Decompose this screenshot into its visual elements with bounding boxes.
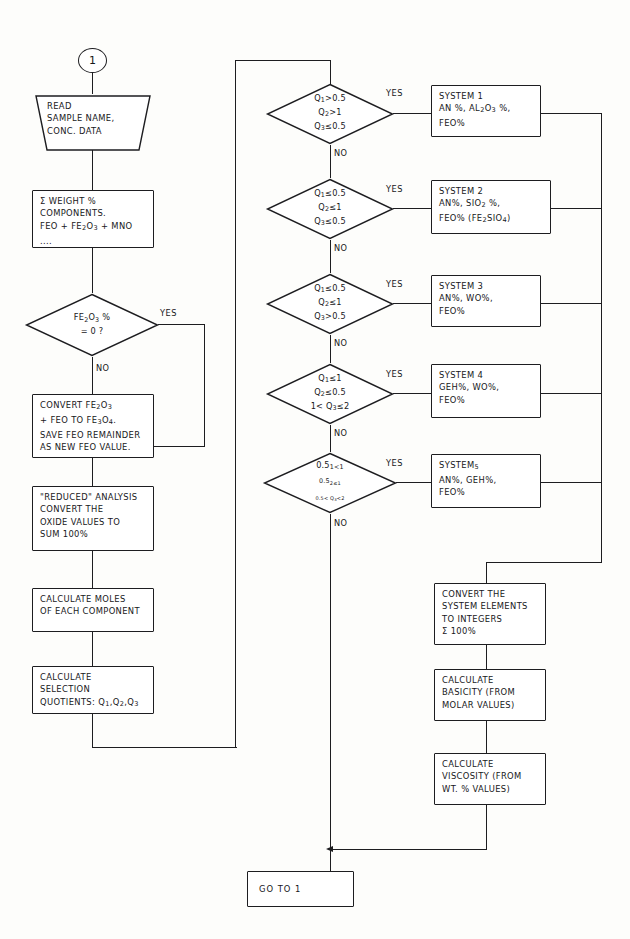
node-calculate-viscosity-text: CALCULATEVISCOSITY (FROMWT. % VALUES) — [435, 754, 545, 799]
node-decision-5-text: 0.51<10.52≤10.5< Q3<2 — [263, 460, 397, 505]
node-calculate-viscosity: CALCULATEVISCOSITY (FROMWT. % VALUES) — [434, 753, 546, 805]
node-calculate-moles-text: CALCULATE MOLESOF EACH COMPONENT — [33, 589, 153, 622]
line-d1-yes — [393, 113, 431, 114]
line-read-to-sum — [92, 150, 93, 190]
line-d4-no — [330, 425, 331, 452]
line-viscosity-to-goto-merge — [330, 849, 487, 850]
node-decision-fe2o3-zero: Fe2O3 %= 0 ? — [25, 293, 159, 357]
node-reduced-analysis-text: "REDUCED" ANALYSISCONVERT THEOXIDE VALUE… — [33, 487, 153, 545]
line-basicity-to-viscosity — [486, 721, 487, 753]
edge-label-d3-yes: YES — [386, 279, 403, 289]
line-systems-bus-vertical — [601, 113, 602, 563]
node-calculate-quotients-text: CALCULATESELECTIONQUOTIENTS: Q1,Q2,Q3 — [33, 667, 153, 715]
node-reduced-analysis: "REDUCED" ANALYSISCONVERT THEOXIDE VALUE… — [32, 486, 154, 551]
node-go-to-1: GO TO 1 — [247, 871, 354, 907]
line-d4-yes — [393, 393, 431, 394]
node-decision-2: Q1≤0.5Q2≤1Q3≤0.5 — [266, 178, 394, 240]
line-fe-yes-down — [204, 324, 205, 447]
node-decision-1: Q1>0.5Q2>1Q3≤0.5 — [266, 83, 394, 145]
edge-label-d4-no: NO — [334, 428, 348, 438]
node-system-3-text: SYSTEM 3AN%, WO%,FeO% — [432, 276, 540, 321]
line-d5-no-down — [330, 514, 331, 850]
node-decision-4: Q1≤1Q2≤0.51< Q3≤2 — [266, 363, 394, 425]
node-decision-3: Q1≤0.5Q2≤1Q3>0.5 — [266, 273, 394, 335]
node-decision-3-text: Q1≤0.5Q2≤1Q3>0.5 — [266, 283, 394, 325]
line-quotients-up-bus — [235, 60, 236, 748]
node-sum-weight-percent: Σ WEIGHT %COMPONENTS.FeO + Fe2O3 + MnO .… — [32, 190, 154, 248]
line-d3-yes — [393, 303, 431, 304]
trapezoid-shape — [34, 94, 152, 152]
connector-start-label: 1 — [89, 54, 96, 67]
line-fe-no-down — [92, 357, 93, 394]
edge-label-d2-no: NO — [334, 243, 348, 253]
edge-label-d1-no: NO — [334, 148, 348, 158]
node-system-1: SYSTEM 1AN %, Al2O3 %,FeO% — [431, 85, 541, 137]
flowchart-canvas: 1 READSAMPLE NAME,CONC. DATA Σ WEIGHT %C… — [0, 0, 630, 939]
line-d1-no — [330, 145, 331, 178]
edge-label-d5-yes: YES — [386, 458, 403, 468]
line-d2-yes — [393, 208, 431, 209]
node-decision-1-text: Q1>0.5Q2>1Q3≤0.5 — [266, 93, 394, 135]
edge-label-fe-no: NO — [96, 363, 110, 373]
line-d5-yes — [396, 482, 431, 483]
node-decision-4-text: Q1≤1Q2≤0.51< Q3≤2 — [266, 373, 394, 415]
node-go-to-1-text: GO TO 1 — [248, 872, 353, 899]
line-system5-to-bus — [540, 482, 602, 483]
node-system-5-text: SYSTEM5AN%, GEH%,FeO% — [432, 455, 540, 503]
node-convert-integers-text: CONVERT THESYSTEM ELEMENTSTO INTEGERSΣ 1… — [435, 584, 545, 642]
line-viscosity-down — [486, 805, 487, 850]
line-system1-to-bus — [540, 113, 602, 114]
line-into-decision1-top — [330, 60, 331, 84]
node-calculate-moles: CALCULATE MOLESOF EACH COMPONENT — [32, 588, 154, 632]
line-d3-no — [330, 335, 331, 363]
node-system-2-text: SYSTEM 2AN%, SiO2 %,FeO% (Fe2SiO4) — [432, 181, 550, 231]
line-fe-yes-right — [158, 324, 205, 325]
node-system-4-text: SYSTEM 4GEH%, WO%,FeO% — [432, 365, 540, 410]
node-sum-weight-percent-text: Σ WEIGHT %COMPONENTS.FeO + Fe2O3 + MnO .… — [33, 191, 153, 251]
node-decision-2-text: Q1≤0.5Q2≤1Q3≤0.5 — [266, 188, 394, 230]
node-calculate-basicity: CALCULATEBASICITY (FROMMOLAR VALUES) — [434, 669, 546, 721]
edge-label-d4-yes: YES — [386, 369, 403, 379]
line-bus-top-to-decision1 — [235, 60, 331, 61]
edge-label-d5-no: NO — [334, 518, 348, 528]
edge-label-fe-yes: YES — [160, 308, 177, 318]
line-quotients-right — [92, 747, 237, 748]
node-system-5: SYSTEM5AN%, GEH%,FeO% — [431, 454, 541, 508]
node-system-3: SYSTEM 3AN%, WO%,FeO% — [431, 275, 541, 327]
line-sum-to-decision-fe — [92, 248, 93, 293]
node-read-sample: READSAMPLE NAME,CONC. DATA — [34, 94, 152, 152]
line-system4-to-bus — [540, 393, 602, 394]
edge-label-d2-yes: YES — [386, 184, 403, 194]
edge-label-d1-yes: YES — [386, 88, 403, 98]
line-system3-to-bus — [540, 303, 602, 304]
node-system-2: SYSTEM 2AN%, SiO2 %,FeO% (Fe2SiO4) — [431, 180, 551, 234]
node-convert-integers: CONVERT THESYSTEM ELEMENTSTO INTEGERSΣ 1… — [434, 583, 546, 645]
line-into-convert-integers — [486, 562, 487, 583]
line-connector-to-read — [92, 72, 93, 94]
line-reduced-to-moles — [92, 551, 93, 588]
line-merge-to-goto — [330, 849, 331, 871]
node-decision-5: 0.51<10.52≤10.5< Q3<2 — [263, 452, 397, 514]
line-quotients-down — [92, 714, 93, 748]
line-moles-to-quotients — [92, 632, 93, 666]
line-convert-to-reduced — [92, 458, 93, 486]
line-integers-to-basicity — [486, 645, 487, 669]
node-system-1-text: SYSTEM 1AN %, Al2O3 %,FeO% — [432, 86, 540, 134]
edge-label-d3-no: NO — [334, 338, 348, 348]
node-convert-fe3o4: CONVERT Fe2O3+ FeO TO Fe3O4.SAVE FeO REM… — [32, 394, 154, 458]
node-calculate-basicity-text: CALCULATEBASICITY (FROMMOLAR VALUES) — [435, 670, 545, 715]
node-calculate-quotients: CALCULATESELECTIONQUOTIENTS: Q1,Q2,Q3 — [32, 666, 154, 714]
line-d2-no — [330, 240, 331, 273]
connector-start-1: 1 — [78, 48, 107, 73]
line-system2-to-bus — [550, 208, 602, 209]
node-convert-fe3o4-text: CONVERT Fe2O3+ FeO TO Fe3O4.SAVE FeO REM… — [33, 395, 153, 458]
node-decision-fe2o3-zero-text: Fe2O3 %= 0 ? — [25, 312, 159, 338]
line-bus-to-convert-integers — [487, 562, 602, 563]
node-system-4: SYSTEM 4GEH%, WO%,FeO% — [431, 364, 541, 418]
